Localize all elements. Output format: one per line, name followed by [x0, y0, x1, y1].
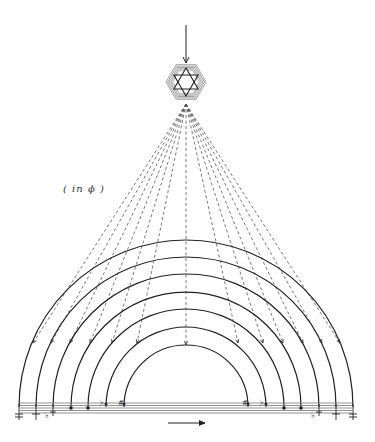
svg-text:♭: ♭ [45, 411, 49, 420]
label-in-phi: ( in ϕ ) [63, 183, 105, 194]
diagram-canvas: ♭♭##♭♭ [0, 0, 375, 442]
note-marks: ♭♭##♭♭ [15, 398, 357, 420]
down-arrow-icon [183, 25, 189, 63]
right-arrow-icon [168, 421, 205, 426]
svg-text:♭: ♭ [260, 398, 264, 407]
svg-text:♭: ♭ [311, 411, 315, 420]
svg-text:♭: ♭ [100, 398, 104, 407]
hexagram-icon [166, 65, 206, 100]
